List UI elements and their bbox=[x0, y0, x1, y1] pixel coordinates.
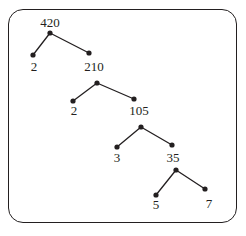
tree-node-dot bbox=[47, 30, 52, 35]
tree-node-dot bbox=[30, 52, 35, 57]
tree-node-dot bbox=[94, 80, 99, 85]
tree-node-label: 3 bbox=[114, 151, 121, 164]
tree-edge bbox=[176, 170, 205, 189]
tree-edge bbox=[73, 83, 97, 101]
edge-group bbox=[33, 33, 205, 195]
factor-tree-figure: 4202210210533557 bbox=[0, 0, 246, 236]
tree-node-dot bbox=[138, 124, 143, 129]
tree-node-label: 2 bbox=[71, 104, 78, 117]
tree-edge bbox=[156, 170, 176, 195]
tree-node-label: 105 bbox=[129, 104, 149, 117]
tree-node-dot bbox=[202, 186, 207, 191]
tree-node-dot bbox=[131, 96, 136, 101]
tree-edge bbox=[33, 33, 50, 55]
tree-node-label: 7 bbox=[206, 197, 213, 210]
tree-edge bbox=[50, 33, 89, 53]
tree-node-label: 35 bbox=[167, 151, 180, 164]
tree-node-label: 2 bbox=[31, 60, 38, 73]
tree-edge bbox=[141, 127, 172, 145]
tree-edge bbox=[97, 83, 134, 99]
tree-node-label: 5 bbox=[153, 198, 160, 211]
tree-node-dot bbox=[169, 142, 174, 147]
tree-edge bbox=[117, 127, 141, 147]
tree-node-dot bbox=[114, 144, 119, 149]
tree-node-dot bbox=[86, 50, 91, 55]
tree-node-label: 420 bbox=[40, 16, 60, 29]
tree-node-label: 210 bbox=[84, 60, 104, 73]
tree-node-dot bbox=[173, 167, 178, 172]
